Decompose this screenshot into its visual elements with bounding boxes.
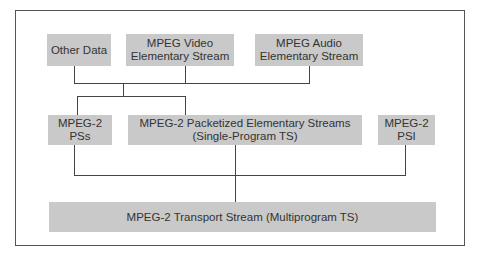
- connector: [235, 145, 236, 202]
- box-mpeg2-psi-line1: MPEG-2: [384, 117, 428, 130]
- connector: [185, 96, 186, 115]
- box-mpeg-video: MPEG Video Elementary Stream: [126, 34, 234, 66]
- box-mpeg-audio: MPEG Audio Elementary Stream: [255, 34, 363, 66]
- connector: [74, 175, 406, 176]
- connector: [185, 66, 186, 83]
- connector: [74, 66, 75, 83]
- box-transport-stream-label: MPEG-2 Transport Stream (Multiprogram TS…: [127, 211, 359, 224]
- box-transport-stream: MPEG-2 Transport Stream (Multiprogram TS…: [49, 202, 436, 232]
- connector: [74, 145, 75, 175]
- box-mpeg-audio-line1: MPEG Audio: [276, 37, 342, 50]
- box-mpeg2-psi: MPEG-2 PSI: [378, 115, 435, 145]
- box-mpeg-video-line2: Elementary Stream: [131, 50, 229, 63]
- box-other-data-label: Other Data: [51, 44, 107, 57]
- connector: [309, 66, 310, 83]
- box-mpeg2-psi-line2: PSI: [397, 130, 416, 143]
- box-mpeg2-pes: MPEG-2 Packetized Elementary Streams (Si…: [128, 115, 362, 145]
- box-mpeg2-pes-line1: MPEG-2 Packetized Elementary Streams: [140, 117, 351, 130]
- connector: [77, 96, 78, 115]
- box-mpeg2-pss-line1: MPEG-2: [58, 117, 102, 130]
- box-other-data: Other Data: [47, 34, 111, 66]
- box-mpeg-video-line1: MPEG Video: [147, 37, 213, 50]
- connector: [74, 83, 310, 84]
- box-mpeg2-pes-line2: (Single-Program TS): [192, 130, 297, 143]
- connector: [77, 96, 186, 97]
- connector: [123, 83, 124, 96]
- connector: [405, 145, 406, 175]
- box-mpeg2-pss: MPEG-2 PSs: [48, 115, 112, 145]
- box-mpeg-audio-line2: Elementary Stream: [260, 50, 358, 63]
- box-mpeg2-pss-line2: PSs: [69, 130, 90, 143]
